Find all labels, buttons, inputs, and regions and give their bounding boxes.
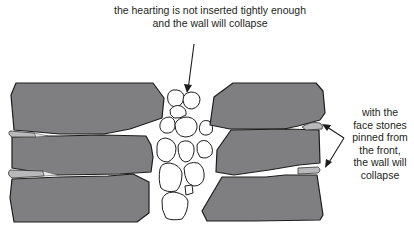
face-annotation-line-4: the front, bbox=[346, 144, 414, 157]
right-face-stone-bottom bbox=[202, 175, 323, 221]
hearting-stone bbox=[157, 138, 176, 162]
face-arrow-lower-shaft bbox=[328, 138, 344, 164]
face-arrow-lower-head bbox=[325, 159, 332, 168]
face-annotation-line-6: collapse bbox=[346, 169, 414, 182]
hearting-stone bbox=[183, 92, 200, 109]
hearting-stone bbox=[160, 117, 175, 133]
left-face-stone-top bbox=[11, 83, 164, 134]
hearting-stone bbox=[170, 106, 186, 119]
face-stones-annotation: with the face stones pinned from the fro… bbox=[346, 106, 414, 181]
face-annotation-line-1: with the bbox=[346, 106, 414, 119]
face-annotation-line-3: pinned from bbox=[346, 131, 414, 144]
right-pin-stone-lower bbox=[298, 167, 320, 174]
hearting-annotation-line-2: and the wall will collapse bbox=[100, 17, 320, 30]
hearting-stone bbox=[162, 192, 188, 220]
hearting-annotation: the hearting is not inserted tightly eno… bbox=[100, 4, 320, 29]
face-annotation-line-5: the wall will bbox=[346, 156, 414, 169]
hearting-stone bbox=[178, 141, 194, 162]
face-arrow-upper-shaft bbox=[327, 127, 344, 138]
left-pin-tip-upper bbox=[34, 133, 48, 137]
face-annotation-line-2: face stones bbox=[346, 119, 414, 132]
right-face-stone-top bbox=[210, 83, 325, 129]
right-face-stones bbox=[202, 83, 325, 221]
hearting-arrow-shaft bbox=[188, 44, 194, 90]
hearting-stone bbox=[185, 185, 193, 195]
left-face-stones bbox=[10, 83, 164, 222]
hearting-stone bbox=[197, 141, 213, 159]
hearting-stones bbox=[157, 90, 213, 220]
left-pin-stone-lower bbox=[8, 170, 44, 178]
left-face-stone-middle bbox=[12, 135, 153, 175]
hearting-stone bbox=[175, 117, 197, 137]
hearting-stone bbox=[159, 163, 182, 192]
face-arrow-upper-head bbox=[322, 124, 331, 131]
hearting-stone bbox=[184, 163, 204, 186]
hearting-annotation-line-1: the hearting is not inserted tightly eno… bbox=[100, 4, 320, 17]
left-face-stone-bottom bbox=[10, 174, 149, 222]
hearting-stone bbox=[168, 90, 184, 107]
